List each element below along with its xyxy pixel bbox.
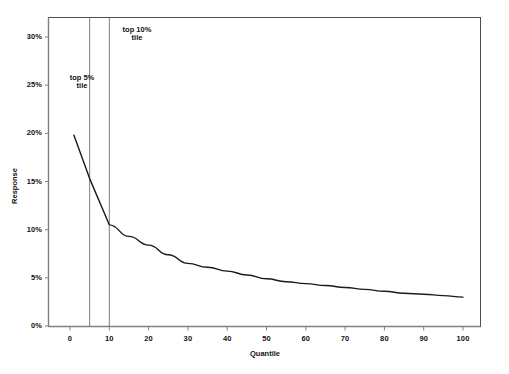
line-chart-canvas <box>0 0 509 374</box>
x-tick-label-100: 100 <box>457 334 470 343</box>
x-tick-label-10: 10 <box>105 334 114 343</box>
chart-container: 0%5%10%15%20%25%30% 01020304050607080901… <box>0 0 509 374</box>
plot-area-border <box>49 18 481 327</box>
y-tick-label-20: 20% <box>8 128 42 137</box>
y-axis-title: Response <box>10 168 19 204</box>
x-tick-label-90: 90 <box>419 334 428 343</box>
series-line-0 <box>74 135 463 297</box>
x-tick-label-80: 80 <box>380 334 389 343</box>
x-tick-label-50: 50 <box>262 334 271 343</box>
y-tick-label-30: 30% <box>8 32 42 41</box>
y-tick-label-10: 10% <box>8 225 42 234</box>
x-tick-label-0: 0 <box>68 334 72 343</box>
y-tick-label-5: 5% <box>8 273 42 282</box>
axis-lines-group <box>49 18 481 327</box>
y-tick-label-0: 0% <box>8 321 42 330</box>
annotation-top-5-percentile: top 5% tile <box>70 74 95 91</box>
y-tick-label-25: 25% <box>8 80 42 89</box>
x-tick-label-60: 60 <box>302 334 311 343</box>
axis-ticks-group <box>45 37 463 331</box>
annotation-top-10-percentile: top 10% tile <box>123 26 152 43</box>
x-tick-label-20: 20 <box>144 334 153 343</box>
data-series-group <box>74 135 463 297</box>
x-tick-label-40: 40 <box>223 334 232 343</box>
x-tick-label-70: 70 <box>341 334 350 343</box>
x-axis-title: Quantile <box>250 349 280 358</box>
x-tick-label-30: 30 <box>184 334 193 343</box>
reference-lines-group <box>90 18 110 327</box>
